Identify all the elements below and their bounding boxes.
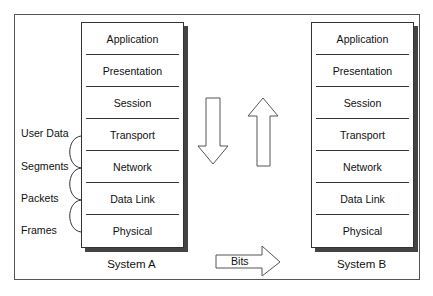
arc-user-data-segments <box>70 136 81 168</box>
arc-packets-frames <box>70 200 81 232</box>
arc-segments-packets <box>70 168 81 200</box>
connector-arcs <box>0 0 433 296</box>
bits-label: Bits <box>231 255 249 267</box>
down-arrow-icon <box>198 98 228 164</box>
up-arrow-icon <box>248 98 278 166</box>
